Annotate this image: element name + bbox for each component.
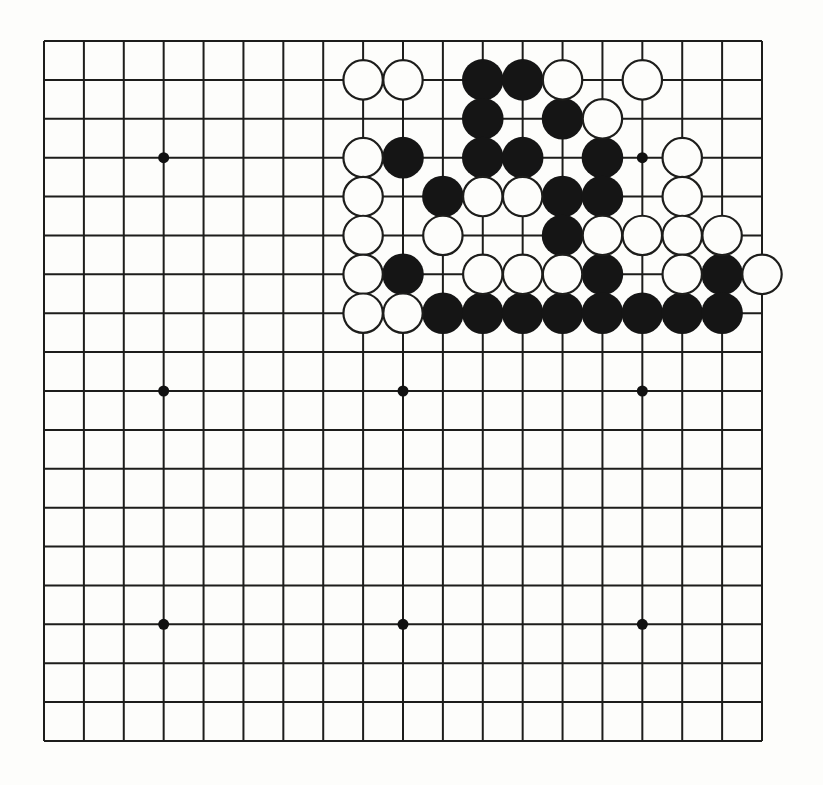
black-stone [542,98,584,140]
white-stone [742,255,781,294]
white-stone [663,216,702,255]
black-stone [422,292,464,334]
black-stone [582,254,624,296]
black-stone [582,176,624,218]
go-board-svg [0,0,823,785]
white-stone [503,177,542,216]
white-stone [463,255,502,294]
star-point [158,152,169,163]
black-stone [382,137,424,179]
black-stone [462,292,504,334]
star-point [637,152,648,163]
scanned-page [0,0,823,785]
black-stone [502,137,544,179]
white-stone [583,99,622,138]
star-point [398,386,409,397]
white-stone [383,60,422,99]
black-stone [502,59,544,101]
white-stone [623,60,662,99]
white-stone [663,255,702,294]
black-stone [462,137,504,179]
white-stone [663,177,702,216]
black-stone [661,292,703,334]
star-point [637,619,648,630]
black-stone [542,176,584,218]
white-stone [343,216,382,255]
white-stone [343,138,382,177]
black-stone [701,292,743,334]
white-stone [423,216,462,255]
black-stone [382,254,424,296]
white-stone [543,60,582,99]
black-stone [622,292,664,334]
white-stone [503,255,542,294]
black-stone [502,292,544,334]
black-stone [582,137,624,179]
black-stone [542,292,584,334]
star-point [158,386,169,397]
white-stone [343,177,382,216]
black-stone [422,176,464,218]
white-stone [663,138,702,177]
black-stone [462,98,504,140]
black-stone [542,215,584,257]
white-stone [543,255,582,294]
star-point [637,386,648,397]
white-stone [463,177,502,216]
white-stone [702,216,741,255]
white-stone [623,216,662,255]
white-stone [383,294,422,333]
black-stone [462,59,504,101]
white-stone [343,255,382,294]
go-board [0,0,823,785]
black-stone [701,254,743,296]
black-stone [582,292,624,334]
white-stone [583,216,622,255]
white-stone [343,294,382,333]
white-stone [343,60,382,99]
star-point [398,619,409,630]
star-point [158,619,169,630]
